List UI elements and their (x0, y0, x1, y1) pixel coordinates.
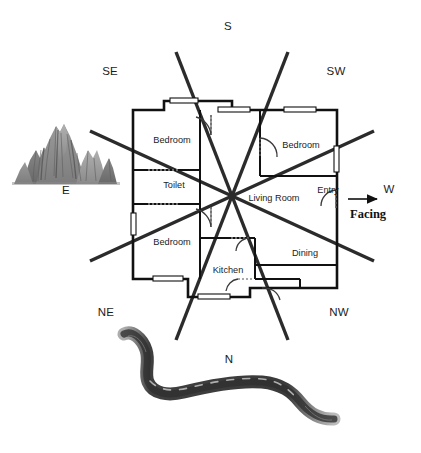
facing-label: Facing (350, 208, 386, 221)
room-label-bedroom-bottom-left: Bedroom (153, 238, 190, 247)
mountain-icon (12, 124, 120, 185)
room-label-toilet: Toilet (163, 181, 184, 190)
compass-label-se: SE (102, 66, 118, 78)
compass-label-ne: NE (98, 307, 114, 319)
window-bottom-left (153, 276, 183, 281)
room-label-dining: Dining (292, 249, 318, 258)
window-left (131, 213, 136, 235)
room-label-bedroom-top-left: Bedroom (153, 136, 190, 145)
compass-label-e: E (62, 185, 70, 197)
room-label-kitchen: Kitchen (213, 266, 244, 275)
compass-label-sw: SW (327, 66, 346, 78)
compass-label-w: W (383, 184, 394, 196)
diagram-svg (0, 0, 421, 453)
diagram-canvas: S SE SW E W NE NW N Bedroom Toilet Bedro… (0, 0, 421, 453)
window-top-2 (284, 107, 316, 112)
compass-label-n: N (225, 354, 234, 366)
room-label-living-room: Living Room (248, 194, 299, 203)
window-bottom-mid (198, 294, 230, 299)
compass-label-nw: NW (329, 307, 349, 319)
compass-label-s: S (224, 21, 232, 33)
window-top-1 (218, 107, 250, 112)
river-icon (124, 333, 334, 420)
room-label-entry: Entry (317, 186, 338, 195)
room-label-bedroom-top-right: Bedroom (282, 141, 319, 150)
window-top-notch (170, 98, 198, 103)
window-right (334, 146, 339, 172)
